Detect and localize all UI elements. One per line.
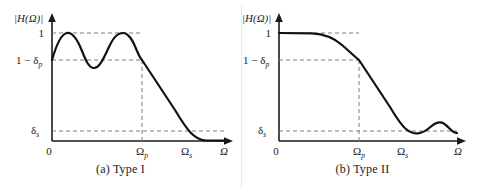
x-axis-title: Ω: [454, 145, 462, 157]
y-tick-label-one-minus-delta-p: 1 − δp: [16, 54, 42, 69]
y-tick-label-one: 1: [39, 27, 45, 39]
y-tick-label-one-minus-delta-p: 1 − δp: [243, 54, 269, 69]
chart-type-ii: 1 1 − δp δs 0 Ωp Ωs |H(Ω)| Ω: [242, 0, 483, 160]
y-axis-title: |H(Ω)|: [14, 12, 43, 25]
panel-type-ii: 1 1 − δp δs 0 Ωp Ωs |H(Ω)| Ω (b) Type II: [242, 0, 483, 193]
magnitude-response-curve: [279, 33, 457, 133]
y-tick-label-delta-s: δs: [258, 124, 266, 139]
chart-type-i: 1 1 − δp δs 0 Ωp Ωs |H(Ω)| Ω: [0, 0, 241, 160]
x-axis-arrowhead: [224, 137, 233, 145]
y-axis-title: |H(Ω)|: [242, 12, 271, 25]
y-axis-arrowhead: [275, 13, 283, 22]
panel-type-i: 1 1 − δp δs 0 Ωp Ωs |H(Ω)| Ω (a) Type I: [0, 0, 241, 193]
panel-caption-type-ii: (b) Type II: [242, 162, 483, 177]
x-axis-title: Ω: [220, 145, 228, 157]
x-tick-label-zero: 0: [273, 145, 279, 157]
y-axis-arrowhead: [48, 13, 56, 22]
magnitude-response-curve: [52, 33, 224, 141]
x-tick-label-omega-s: Ωs: [181, 145, 192, 160]
x-tick-label-omega-p: Ωp: [353, 145, 365, 160]
x-tick-label-zero: 0: [46, 145, 52, 157]
x-tick-label-omega-p: Ωp: [136, 145, 148, 160]
y-tick-label-one: 1: [266, 27, 272, 39]
filter-specification-figure: 1 1 − δp δs 0 Ωp Ωs |H(Ω)| Ω (a) Type I: [0, 0, 483, 193]
panel-caption-type-i: (a) Type I: [0, 162, 241, 177]
y-tick-label-delta-s: δs: [31, 124, 39, 139]
x-axis-arrowhead: [457, 137, 466, 145]
x-tick-label-omega-s: Ωs: [397, 145, 408, 160]
